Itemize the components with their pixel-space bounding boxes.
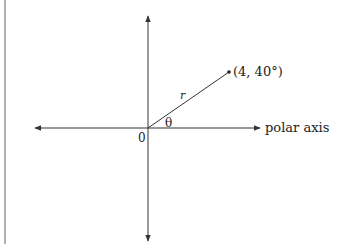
radius-label: r: [180, 89, 186, 102]
angle-label: θ: [165, 116, 172, 130]
polar-axis-label: polar axis: [265, 120, 329, 135]
point-label: (4, 40°): [233, 64, 283, 79]
point-marker: [227, 70, 231, 74]
polar-diagram: (4, 40°) r θ 0 polar axis: [0, 0, 338, 244]
origin-label: 0: [138, 131, 146, 145]
radius-line: [148, 72, 229, 128]
